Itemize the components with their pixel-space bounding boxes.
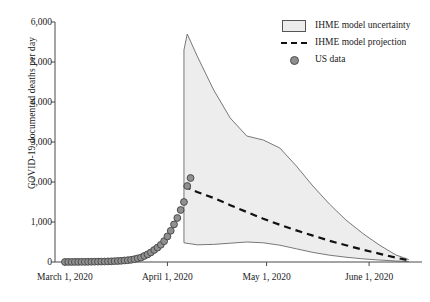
legend-label-projection: IHME model projection: [315, 38, 406, 48]
legend-item-us-data: US data: [281, 51, 411, 68]
legend-label-uncertainty: IHME model uncertainty: [315, 21, 411, 31]
dashed-line-swatch-icon: [281, 36, 307, 49]
us-data-point: [167, 227, 174, 234]
us-data-point: [184, 183, 191, 190]
us-data-point: [171, 221, 178, 228]
x-axis-tick-label: April 1, 2020: [142, 272, 193, 282]
us-data-point: [181, 199, 188, 206]
legend-item-projection: IHME model projection: [281, 34, 411, 51]
us-data-point: [177, 207, 184, 214]
covid-deaths-chart: 01,0002,0003,0004,0005,0006,000 COVID-19…: [0, 0, 430, 302]
x-axis-tick-label: May 1, 2020: [242, 272, 290, 282]
legend-label-us-data: US data: [315, 55, 345, 65]
legend-item-uncertainty: IHME model uncertainty: [281, 17, 411, 34]
x-axis-tick-label: June 1, 2020: [345, 272, 393, 282]
circle-marker-swatch-icon: [281, 53, 307, 66]
uncertainty-band-fill: [184, 34, 409, 262]
x-axis-tick-label: March 1, 2020: [37, 272, 93, 282]
uncertainty-band-swatch-icon: [281, 19, 307, 32]
us-data-point: [174, 215, 181, 222]
us-data-point: [187, 175, 194, 182]
chart-legend: IHME model uncertainty IHME model projec…: [281, 17, 411, 68]
